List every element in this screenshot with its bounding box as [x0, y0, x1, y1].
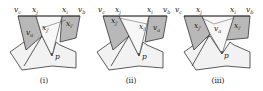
- panel-i: vc xj xi vb va xi' xj' p (i): [0, 0, 88, 91]
- caption-ii: (ii): [126, 76, 137, 85]
- svg-text:vb: vb: [163, 5, 170, 15]
- svg-text:p: p: [142, 52, 147, 61]
- svg-text:xi: xi: [147, 5, 153, 15]
- panel-iii: vc xj xi vb xj' xi' va p (iii): [174, 0, 262, 91]
- panel-ii: vc xj xi vb xj' va xi' p (ii): [87, 0, 175, 91]
- svg-text:p: p: [224, 51, 229, 60]
- caption-i: (i): [40, 76, 48, 85]
- svg-text:xi: xi: [62, 5, 68, 15]
- svg-text:p: p: [55, 52, 60, 61]
- svg-text:vc: vc: [98, 5, 105, 15]
- caption-iii: (iii): [211, 76, 224, 85]
- polygon-diagram-ii: vc xj xi vb xj' va xi' p (ii): [87, 0, 175, 91]
- polygon-diagram-i: vc xj xi vb va xi' xj' p (i): [0, 0, 88, 91]
- svg-text:vc: vc: [175, 5, 182, 15]
- polygon-diagram-iii: vc xj xi vb xj' xi' va p (iii): [174, 0, 262, 91]
- svg-text:xj: xj: [115, 5, 121, 16]
- svg-text:xj: xj: [32, 5, 38, 16]
- svg-text:vb: vb: [246, 5, 253, 15]
- svg-text:xj: xj: [196, 5, 202, 16]
- svg-text:vc: vc: [14, 5, 21, 15]
- svg-text:xi: xi: [230, 5, 236, 15]
- svg-text:vb: vb: [78, 5, 85, 15]
